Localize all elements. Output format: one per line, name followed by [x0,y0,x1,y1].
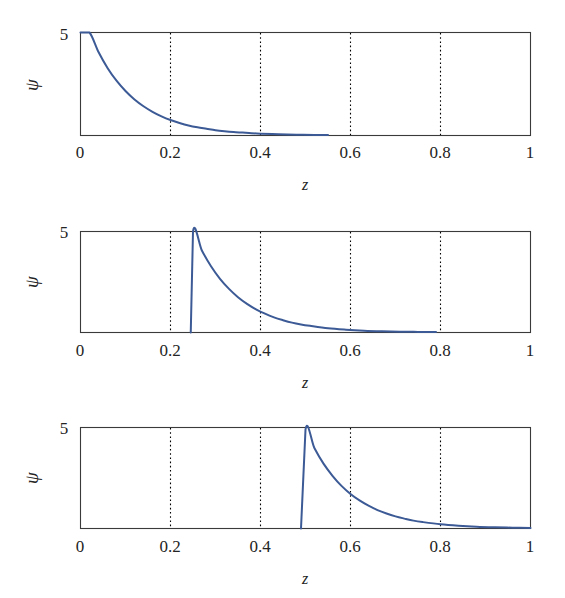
data-curve-2 [191,228,436,333]
x-tick-1-panel-3: 1 [526,537,535,556]
x-tick-0.8-panel-1: 0.8 [429,143,450,162]
x-tick-0.2-panel-1: 0.2 [159,143,180,162]
plot-panel-3: ψ 5 0 0.2 0.4 0.6 0.8 1 z [0,396,565,598]
x-tick-0.6-panel-3: 0.6 [339,537,360,556]
x-tick-0-panel-2: 0 [76,341,85,360]
y-axis-label-2: ψ [21,275,42,288]
x-axis-label-1: z [301,176,309,193]
x-tick-0.2-panel-2: 0.2 [159,341,180,360]
x-tick-0.4-panel-3: 0.4 [249,537,271,556]
axis-frame-2 [81,232,531,333]
plot-svg-2: ψ 5 0 0.2 0.4 0.6 0.8 1 z [0,199,565,398]
x-tick-0.4-panel-2: 0.4 [249,341,271,360]
x-tick-0-panel-1: 0 [76,143,85,162]
x-tick-0-panel-3: 0 [76,537,85,556]
x-tick-0.2-panel-3: 0.2 [159,537,180,556]
y-axis-label-3: ψ [21,471,42,484]
data-curve-3 [301,426,531,529]
plot-svg-3: ψ 5 0 0.2 0.4 0.6 0.8 1 z [0,396,565,598]
x-tick-0.4-panel-1: 0.4 [249,143,271,162]
x-tick-1-panel-1: 1 [526,143,535,162]
x-tick-0.8-panel-2: 0.8 [429,341,450,360]
x-tick-0.6-panel-1: 0.6 [339,143,360,162]
y-axis-label-1: ψ [21,78,42,91]
x-tick-1-panel-2: 1 [526,341,535,360]
data-curve-1 [81,33,329,136]
x-axis-label-2: z [301,374,309,391]
y-tick-5-panel-3: 5 [60,419,69,438]
axis-frame-1 [81,33,531,136]
figure-container: ψ 5 0 0.2 0.4 0.6 0.8 1 z ψ 5 [0,0,565,598]
plot-panel-2: ψ 5 0 0.2 0.4 0.6 0.8 1 z [0,199,565,398]
x-axis-label-3: z [301,570,309,587]
y-tick-5-panel-1: 5 [60,25,69,44]
plot-svg-1: ψ 5 0 0.2 0.4 0.6 0.8 1 z [0,0,565,200]
y-tick-5-panel-2: 5 [60,223,69,242]
x-tick-0.6-panel-2: 0.6 [339,341,360,360]
x-tick-0.8-panel-3: 0.8 [429,537,450,556]
plot-panel-1: ψ 5 0 0.2 0.4 0.6 0.8 1 z [0,0,565,200]
